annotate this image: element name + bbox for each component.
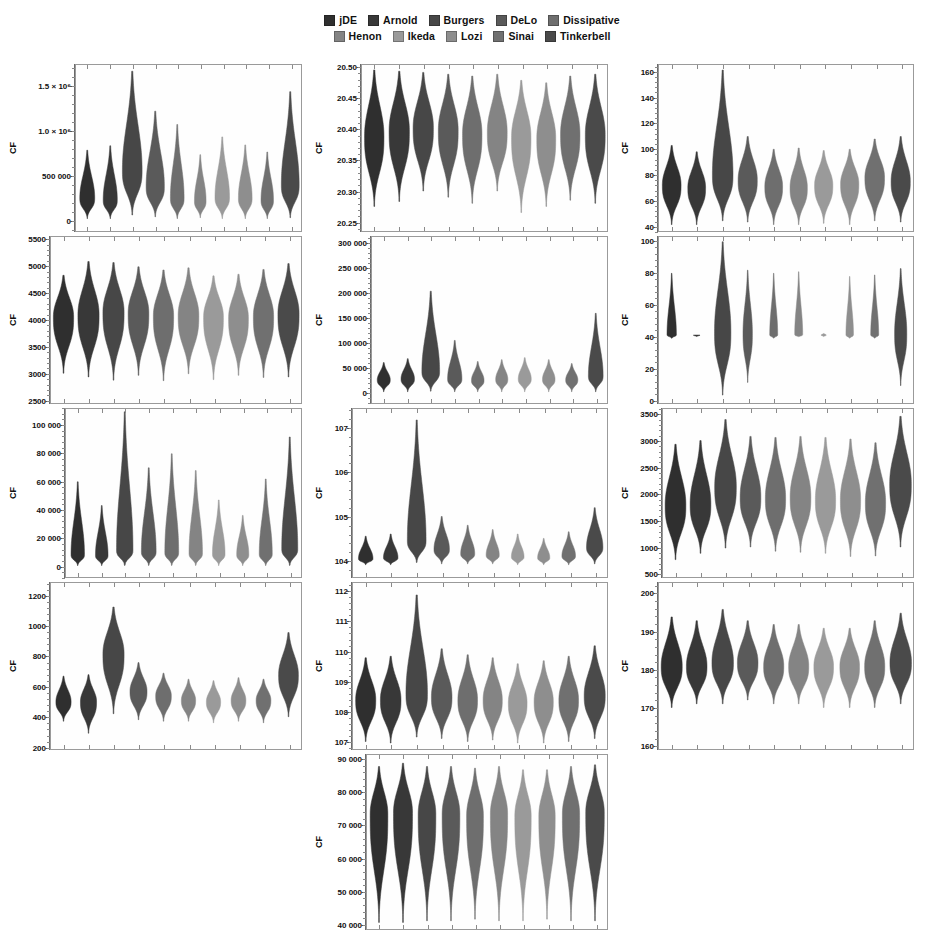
violin-jde[interactable]	[663, 409, 688, 577]
violin-sinai[interactable]	[862, 237, 887, 403]
violin-tinkerbell[interactable]	[888, 65, 913, 231]
violin-burgers[interactable]	[113, 409, 137, 577]
violin-delo[interactable]	[137, 409, 161, 577]
violin-dissipative[interactable]	[761, 237, 786, 403]
violin-henon[interactable]	[786, 65, 811, 231]
violin-dissipative[interactable]	[151, 237, 176, 403]
violin-arnold[interactable]	[76, 583, 101, 749]
violin-burgers[interactable]	[710, 583, 735, 749]
violin-ikeda[interactable]	[509, 65, 534, 231]
violin-lozi[interactable]	[234, 65, 257, 231]
violin-lozi[interactable]	[534, 65, 559, 231]
violin-delo[interactable]	[126, 583, 151, 749]
violin-ikeda[interactable]	[813, 409, 838, 577]
violin-burgers[interactable]	[101, 583, 126, 749]
violin-lozi[interactable]	[837, 583, 862, 749]
violin-henon[interactable]	[480, 409, 505, 577]
violin-tinkerbell[interactable]	[888, 237, 913, 403]
violin-jde[interactable]	[353, 583, 378, 749]
violin-sinai[interactable]	[251, 237, 276, 403]
violin-dissipative[interactable]	[151, 583, 176, 749]
violin-tinkerbell[interactable]	[278, 409, 302, 577]
violin-sinai[interactable]	[862, 65, 887, 231]
violin-arnold[interactable]	[90, 409, 114, 577]
legend-item-ikeda[interactable]: Ikeda	[393, 30, 435, 42]
violin-delo[interactable]	[144, 65, 167, 231]
legend-item-jde[interactable]: jDE	[324, 14, 357, 26]
violin-jde[interactable]	[372, 237, 396, 403]
violin-tinkerbell[interactable]	[888, 583, 913, 749]
violin-sinai[interactable]	[254, 409, 278, 577]
violin-ikeda[interactable]	[505, 409, 530, 577]
violin-henon[interactable]	[176, 237, 201, 403]
violin-delo[interactable]	[735, 237, 760, 403]
violin-delo[interactable]	[735, 65, 760, 231]
violin-henon[interactable]	[184, 409, 208, 577]
violin-jde[interactable]	[659, 583, 684, 749]
violin-tinkerbell[interactable]	[582, 409, 607, 577]
violin-tinkerbell[interactable]	[583, 755, 607, 929]
violin-lozi[interactable]	[226, 583, 251, 749]
violin-tinkerbell[interactable]	[276, 237, 301, 403]
violin-jde[interactable]	[362, 65, 387, 231]
violin-jde[interactable]	[51, 583, 76, 749]
violin-lozi[interactable]	[531, 409, 556, 577]
violin-burgers[interactable]	[710, 65, 735, 231]
violin-lozi[interactable]	[537, 237, 561, 403]
violin-burgers[interactable]	[121, 65, 144, 231]
violin-burgers[interactable]	[404, 583, 429, 749]
violin-henon[interactable]	[189, 65, 212, 231]
violin-sinai[interactable]	[558, 65, 583, 231]
violin-lozi[interactable]	[531, 583, 556, 749]
violin-sinai[interactable]	[256, 65, 279, 231]
violin-lozi[interactable]	[535, 755, 559, 929]
violin-henon[interactable]	[788, 409, 813, 577]
violin-dissipative[interactable]	[160, 409, 184, 577]
violin-jde[interactable]	[66, 409, 90, 577]
violin-ikeda[interactable]	[811, 65, 836, 231]
violin-tinkerbell[interactable]	[583, 65, 608, 231]
violin-henon[interactable]	[487, 755, 511, 929]
violin-jde[interactable]	[659, 65, 684, 231]
violin-dissipative[interactable]	[761, 583, 786, 749]
violin-lozi[interactable]	[231, 409, 255, 577]
violin-lozi[interactable]	[226, 237, 251, 403]
violin-delo[interactable]	[439, 755, 463, 929]
violin-burgers[interactable]	[713, 409, 738, 577]
legend-item-dissipative[interactable]: Dissipative	[548, 14, 620, 26]
violin-lozi[interactable]	[837, 65, 862, 231]
violin-henon[interactable]	[176, 583, 201, 749]
violin-sinai[interactable]	[556, 409, 581, 577]
violin-delo[interactable]	[429, 409, 454, 577]
violin-sinai[interactable]	[559, 755, 583, 929]
violin-arnold[interactable]	[99, 65, 122, 231]
violin-sinai[interactable]	[251, 583, 276, 749]
violin-arnold[interactable]	[76, 237, 101, 403]
violin-jde[interactable]	[353, 409, 378, 577]
violin-arnold[interactable]	[688, 409, 713, 577]
legend-item-arnold[interactable]: Arnold	[368, 14, 417, 26]
violin-burgers[interactable]	[404, 409, 429, 577]
violin-ikeda[interactable]	[211, 65, 234, 231]
legend-item-tinkerbell[interactable]: Tinkerbell	[545, 30, 610, 42]
legend-item-burgers[interactable]: Burgers	[429, 14, 485, 26]
violin-jde[interactable]	[367, 755, 391, 929]
violin-burgers[interactable]	[419, 237, 443, 403]
violin-lozi[interactable]	[838, 409, 863, 577]
legend-item-delo[interactable]: DeLo	[496, 14, 538, 26]
violin-arnold[interactable]	[684, 237, 709, 403]
violin-arnold[interactable]	[391, 755, 415, 929]
violin-tinkerbell[interactable]	[276, 583, 301, 749]
violin-delo[interactable]	[429, 583, 454, 749]
legend-item-sinai[interactable]: Sinai	[493, 30, 534, 42]
legend-item-henon[interactable]: Henon	[334, 30, 382, 42]
violin-arnold[interactable]	[684, 583, 709, 749]
violin-sinai[interactable]	[862, 583, 887, 749]
violin-burgers[interactable]	[101, 237, 126, 403]
violin-burgers[interactable]	[415, 755, 439, 929]
violin-dissipative[interactable]	[761, 65, 786, 231]
violin-dissipative[interactable]	[166, 65, 189, 231]
violin-ikeda[interactable]	[201, 583, 226, 749]
legend-item-lozi[interactable]: Lozi	[446, 30, 482, 42]
violin-jde[interactable]	[51, 237, 76, 403]
